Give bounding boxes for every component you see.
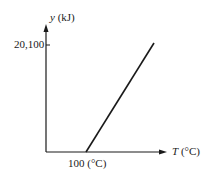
x-axis-symbol: T xyxy=(172,145,178,157)
y-axis-symbol: y xyxy=(50,11,55,23)
x-tick-label: 100 (°C) xyxy=(68,157,106,169)
y-axis-arrow-icon xyxy=(44,24,49,32)
y-tick-label: 20,100 xyxy=(14,38,44,50)
x-axis-label: T (°C) xyxy=(172,145,200,157)
y-axis-label: y (kJ) xyxy=(50,11,75,23)
x-axis-arrow-icon xyxy=(159,150,167,155)
x-axis-unit: (°C) xyxy=(181,145,200,157)
y-axis-unit: (kJ) xyxy=(58,11,75,23)
data-line xyxy=(86,43,154,152)
